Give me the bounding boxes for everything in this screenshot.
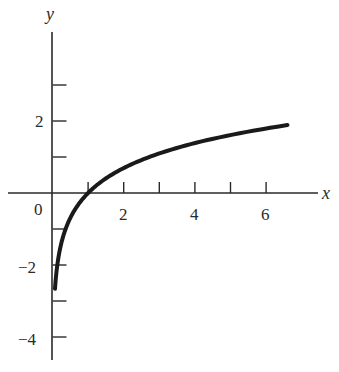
x-ticks <box>88 182 266 193</box>
ln-curve <box>55 125 287 289</box>
origin-label: 0 <box>34 200 43 219</box>
x-tick-label-2: 2 <box>119 205 128 224</box>
y-axis-label: y <box>44 4 54 24</box>
axes <box>8 32 318 360</box>
y-tick-label-2: 2 <box>35 112 44 131</box>
y-ticks <box>53 85 67 337</box>
y-tick-label-neg2: −2 <box>18 258 36 277</box>
x-tick-label-4: 4 <box>190 205 199 224</box>
y-tick-label-neg4: −4 <box>18 330 37 349</box>
x-axis-label: x <box>321 183 330 203</box>
x-tick-label-6: 6 <box>261 205 270 224</box>
chart: y x 0 2 4 6 2 −2 −4 <box>0 0 339 372</box>
